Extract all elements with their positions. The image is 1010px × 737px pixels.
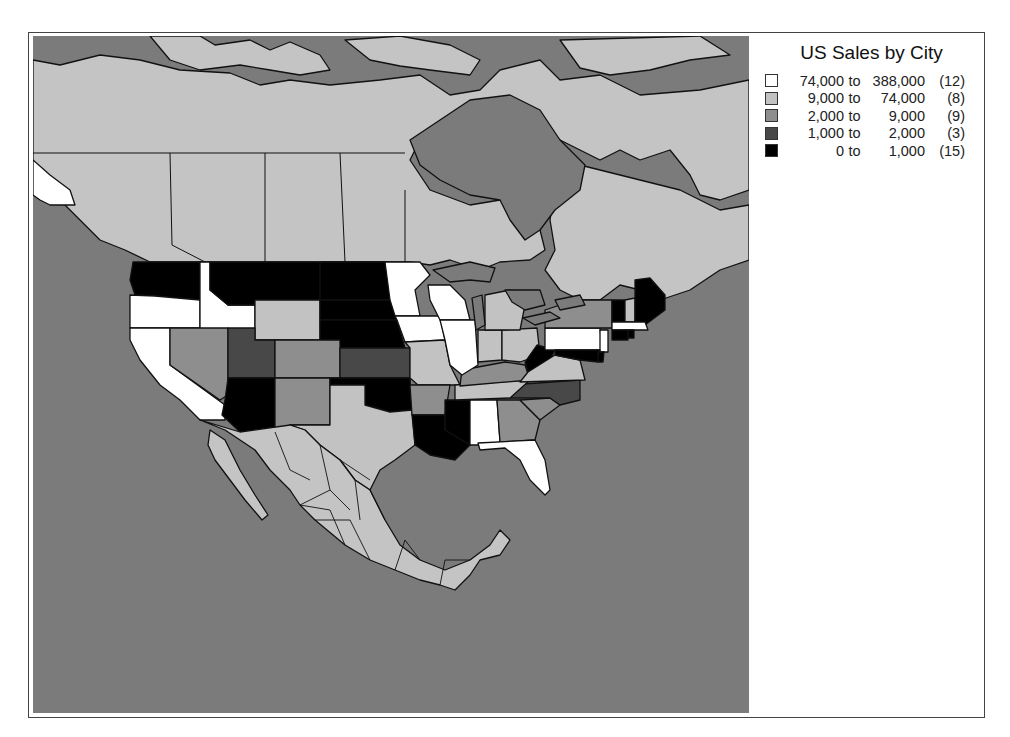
legend-range-from: 9,000 [783, 90, 844, 106]
legend-item: 0 to 1,000 (15) [760, 142, 990, 160]
legend-range-to-word: to [844, 125, 865, 141]
state-NJ[interactable] [600, 330, 608, 352]
legend-range-to: 1,000 [865, 143, 925, 159]
state-PA[interactable] [545, 328, 602, 350]
state-WA[interactable] [130, 262, 200, 300]
legend-item: 2,000 to 9,000 (9) [760, 107, 990, 125]
legend-range-to-word: to [844, 90, 865, 106]
legend-count: (3) [925, 125, 965, 141]
legend-range-to-word: to [844, 143, 865, 159]
state-CO[interactable] [275, 340, 340, 378]
state-AR[interactable] [410, 385, 450, 415]
legend-item: 9,000 to 74,000 (8) [760, 90, 990, 108]
legend-swatch [765, 109, 778, 122]
legend-swatch [765, 127, 778, 140]
legend-item: 1,000 to 2,000 (3) [760, 125, 990, 143]
state-IN[interactable] [478, 330, 502, 362]
legend-count: (9) [925, 108, 965, 124]
legend-range-to-word: to [844, 108, 865, 124]
state-MA[interactable] [612, 322, 648, 330]
state-SD[interactable] [320, 300, 397, 320]
state-KS[interactable] [340, 348, 410, 378]
legend-item: 74,000 to 388,000 (12) [760, 72, 990, 90]
legend-count: (15) [925, 143, 965, 159]
legend-range-from: 2,000 [783, 108, 844, 124]
legend-range-to: 9,000 [865, 108, 925, 124]
state-DE[interactable] [598, 352, 604, 362]
legend-range-to-word: to [844, 73, 865, 89]
legend-swatch [765, 92, 778, 105]
legend: US Sales by City 74,000 to 388,000 (12) … [760, 42, 990, 160]
legend-title: US Sales by City [764, 42, 979, 64]
state-OR[interactable] [130, 295, 200, 328]
state-WY[interactable] [255, 300, 320, 340]
legend-swatch [765, 74, 778, 87]
legend-range-from: 1,000 [783, 125, 844, 141]
state-AL[interactable] [470, 400, 500, 445]
legend-range-from: 0 [783, 143, 844, 159]
legend-range-from: 74,000 [783, 73, 844, 89]
state-RI[interactable] [628, 330, 634, 338]
state-NH[interactable] [625, 298, 635, 322]
legend-swatch [765, 144, 778, 157]
legend-range-to: 388,000 [865, 73, 925, 89]
state-ND[interactable] [320, 262, 390, 300]
state-VT[interactable] [612, 300, 625, 322]
state-NM[interactable] [275, 378, 330, 432]
legend-count: (8) [925, 90, 965, 106]
legend-range-to: 74,000 [865, 90, 925, 106]
choropleth-map[interactable] [33, 36, 749, 713]
legend-range-to: 2,000 [865, 125, 925, 141]
legend-count: (12) [925, 73, 965, 89]
state-CT[interactable] [612, 330, 628, 340]
